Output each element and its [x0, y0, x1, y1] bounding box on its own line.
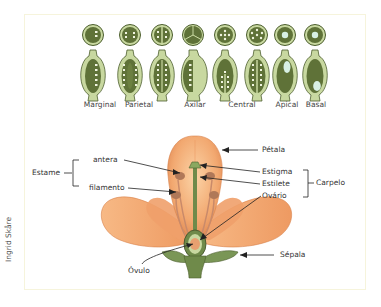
cross-section-parietal-2: [152, 25, 173, 46]
label-estame: Estame: [32, 168, 60, 177]
label-parietal: Parietal: [125, 100, 153, 109]
label-estilete: Estilete: [262, 179, 290, 188]
placentation-longitudinal-sections: [81, 50, 328, 101]
long-section-parietal-2: [150, 50, 175, 101]
flower-illustration: [101, 136, 291, 278]
long-section-apical: [273, 50, 298, 101]
label-ovulo: Óvulo: [128, 266, 150, 275]
image-credit: Ingrid Skåre: [4, 217, 13, 262]
label-basal: Basal: [306, 100, 326, 109]
cross-section-central: [215, 25, 236, 46]
label-sepala: Sépala: [280, 250, 305, 259]
label-antera: antera: [93, 155, 118, 164]
long-section-parietal: [118, 50, 143, 101]
cross-section-marginal: [83, 25, 104, 46]
long-section-axilar: [181, 50, 207, 101]
long-section-central: [213, 50, 238, 101]
diagram-canvas: [0, 0, 381, 307]
label-ovario: Ovário: [262, 191, 287, 200]
label-carpelo: Carpelo: [316, 178, 345, 187]
label-apical: Apical: [276, 100, 299, 109]
cross-section-apical: [275, 25, 296, 46]
label-axilar: Axilar: [184, 100, 205, 109]
cross-section-axilar: [183, 25, 204, 46]
cross-section-parietal: [120, 25, 141, 46]
long-section-marginal: [81, 50, 106, 101]
label-filamento: filamento: [89, 183, 125, 192]
label-petala: Pétala: [262, 145, 285, 154]
label-marginal: Marginal: [84, 100, 116, 109]
placentation-cross-sections: [83, 25, 326, 46]
cross-section-central-2: [247, 25, 268, 46]
label-estigma: Estigma: [262, 167, 292, 176]
cross-section-basal: [305, 25, 326, 46]
long-section-basal: [303, 50, 328, 101]
long-section-central-2: [245, 50, 270, 101]
label-central: Central: [228, 100, 255, 109]
